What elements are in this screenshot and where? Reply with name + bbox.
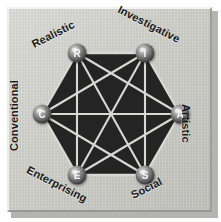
node-enterprising: E [68,166,87,185]
node-letter-i: I [144,48,147,59]
riasec-hexagon-figure: RIASEC Realistic Investigative Artistic … [0,0,221,222]
node-social: S [136,166,155,185]
node-letter-e: E [74,170,81,181]
node-letter-r: R [73,48,81,59]
node-artistic: A [171,105,190,124]
node-letter-a: A [176,109,183,120]
node-letter-c: C [38,109,45,120]
node-realistic: R [68,44,87,63]
node-conventional: C [33,105,52,124]
hexagon-diagram: RIASEC [7,7,212,212]
node-letter-s: S [142,170,149,181]
node-investigative: I [136,44,155,63]
